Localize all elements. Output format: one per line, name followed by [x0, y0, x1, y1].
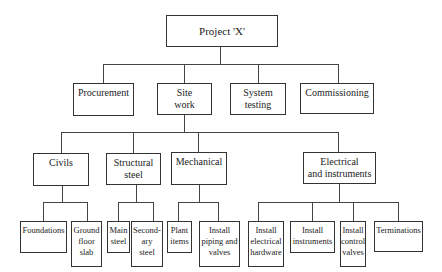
- connector: [43, 202, 88, 203]
- node-terminations: Terminations: [374, 221, 423, 252]
- connector: [103, 64, 104, 83]
- node-install-control-valves: Install control valves: [340, 221, 366, 267]
- node-plant-items: Plant items: [167, 221, 192, 253]
- node-main-steel: Main steel: [107, 221, 130, 253]
- connector: [43, 202, 44, 221]
- connector: [258, 64, 259, 83]
- connector: [258, 202, 399, 203]
- connector: [62, 186, 63, 203]
- node-site-work: Site work: [157, 83, 212, 115]
- node-install-piping-valves: Install piping and valves: [199, 221, 240, 267]
- connector: [199, 185, 200, 203]
- node-label: Ground floor slab: [74, 225, 100, 257]
- node-install-instruments: Install instruments: [290, 221, 335, 253]
- node-label: Install electrical hardware: [250, 225, 282, 257]
- connector: [118, 202, 119, 221]
- node-procurement: Procurement: [73, 83, 134, 116]
- node-install-electrical-hardware: Install electrical hardware: [248, 221, 284, 267]
- node-label: Commissioning: [305, 87, 368, 98]
- connector: [61, 132, 339, 133]
- root-node-project-x: Project 'X': [166, 15, 278, 47]
- connector: [178, 202, 219, 203]
- node-label: Install instruments: [293, 225, 333, 246]
- node-label: Install piping and valves: [201, 225, 237, 257]
- node-label: Procurement: [78, 87, 129, 98]
- connector: [118, 202, 154, 203]
- node-label: Foundations: [22, 225, 64, 235]
- node-label: Structural steel: [114, 157, 153, 180]
- connector: [258, 202, 259, 221]
- connector: [220, 47, 221, 64]
- connector: [87, 202, 88, 221]
- node-label: Mechanical: [176, 156, 223, 167]
- node-label: Terminations: [376, 225, 421, 235]
- connector: [339, 184, 340, 203]
- connector: [178, 202, 179, 221]
- connector: [338, 132, 339, 152]
- node-label: Plant items: [170, 225, 188, 246]
- node-ground-floor-slab: Ground floor slab: [71, 221, 102, 267]
- node-secondary-steel: Second- ary steel: [131, 221, 163, 267]
- node-foundations: Foundations: [20, 221, 67, 253]
- connector: [103, 64, 339, 65]
- connector: [338, 64, 339, 83]
- connector: [218, 202, 219, 221]
- node-label: Main steel: [110, 225, 128, 246]
- connector: [153, 202, 154, 221]
- node-mechanical: Mechanical: [171, 152, 227, 185]
- connector: [184, 115, 185, 133]
- node-label: Second- ary steel: [133, 225, 161, 257]
- connector: [133, 132, 134, 153]
- node-electrical-instruments: Electrical and instruments: [303, 152, 376, 184]
- connector: [184, 64, 185, 83]
- connector: [61, 132, 62, 153]
- connector: [136, 185, 137, 203]
- node-commissioning: Commissioning: [300, 83, 374, 114]
- node-label: Electrical and instruments: [308, 156, 372, 179]
- connector: [198, 132, 199, 152]
- node-label: Install control valves: [341, 225, 365, 257]
- node-label: Civils: [49, 157, 73, 168]
- connector: [353, 202, 354, 221]
- node-label: Site work: [174, 87, 195, 110]
- node-civils: Civils: [33, 153, 89, 186]
- connector: [312, 202, 313, 221]
- connector: [398, 202, 399, 221]
- node-label: System testing: [243, 87, 272, 110]
- root-label: Project 'X': [199, 25, 245, 37]
- node-system-testing: System testing: [230, 83, 286, 115]
- node-structural-steel: Structural steel: [106, 153, 161, 185]
